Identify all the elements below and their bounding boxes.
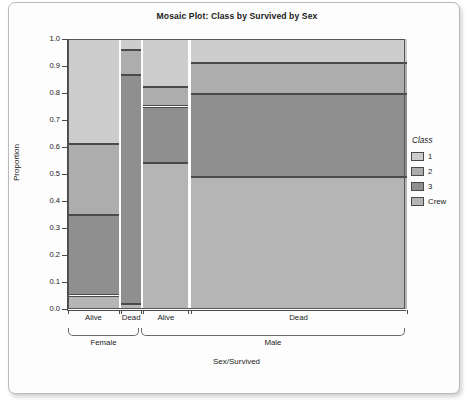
y-axis-tick [62,120,67,121]
legend-item-label: Crew [428,197,446,206]
legend-title: Class [412,136,446,145]
mosaic-cell[interactable] [121,75,141,304]
y-axis-tick [62,39,67,40]
y-axis-tick-label: 0.2 [34,251,60,259]
mosaic-cell[interactable] [191,177,407,309]
group-bracket [141,328,405,336]
mosaic-cell[interactable] [191,94,407,176]
y-axis-tick [62,201,67,202]
legend-swatch-icon [411,182,424,191]
y-axis-tick-label: 0.1 [34,278,60,286]
y-axis-tick [62,66,67,67]
y-axis-tick [62,255,67,256]
legend-item-label: 1 [428,152,432,161]
mosaic-column[interactable] [121,39,141,309]
y-axis-tick-label: 0.5 [34,170,60,178]
mosaic-cell[interactable] [68,296,119,310]
legend-item[interactable]: 3 [411,179,446,194]
mosaic-cell[interactable] [143,87,188,107]
group-label: Male [141,338,405,347]
y-axis-tick-label: 0.9 [34,62,60,70]
x-axis-title: Sex/Survived [68,357,405,366]
legend: Class 123Crew [411,136,446,209]
y-axis-tick-label: 1.0 [34,35,60,43]
mosaic-column[interactable] [68,39,119,309]
y-axis-tick-label: 0.6 [34,143,60,151]
mosaic-cell[interactable] [121,50,141,75]
mosaic-cell[interactable] [143,39,188,87]
mosaic-plot-figure: Mosaic Plot: Class by Survived by Sex Pr… [0,0,474,411]
legend-swatch-icon [411,152,424,161]
mosaic-cell[interactable] [68,39,119,144]
legend-rows: 123Crew [411,149,446,209]
group-bracket [68,328,139,336]
y-axis-tick [62,309,67,310]
mosaic-cell[interactable] [143,107,188,164]
legend-swatch-icon [411,167,424,176]
x-axis-line [67,310,406,311]
y-axis-tick [62,282,67,283]
y-axis-tick [62,93,67,94]
mosaic-cell[interactable] [191,63,407,94]
y-axis-tick-labels: 0.00.10.20.30.40.50.60.70.80.91.0 [8,0,60,411]
mosaic-column[interactable] [191,39,407,309]
legend-item-label: 3 [428,182,432,191]
y-axis-tick [62,174,67,175]
legend-item-label: 2 [428,167,432,176]
mosaic-cell[interactable] [121,39,141,50]
mosaic-column[interactable] [143,39,188,309]
chart-title: Mosaic Plot: Class by Survived by Sex [0,11,474,21]
y-axis-tick [62,147,67,148]
y-axis-tick-label: 0.0 [34,305,60,313]
mosaic-cell[interactable] [68,144,119,215]
legend-item[interactable]: 1 [411,149,446,164]
mosaic-cell[interactable] [143,163,188,309]
mosaic-cell[interactable] [191,39,407,63]
legend-swatch-icon [411,197,424,206]
y-axis-tick-label: 0.8 [34,89,60,97]
x-axis-tick-label: Dead [171,313,427,322]
group-label: Female [68,338,139,347]
mosaic-cell[interactable] [68,215,119,295]
plot-area [68,39,405,309]
legend-item[interactable]: 2 [411,164,446,179]
y-axis-tick-label: 0.7 [34,116,60,124]
legend-item[interactable]: Crew [411,194,446,209]
mosaic-cell[interactable] [121,304,141,309]
y-axis-tick-label: 0.4 [34,197,60,205]
y-axis-tick [62,228,67,229]
y-axis-tick-label: 0.3 [34,224,60,232]
